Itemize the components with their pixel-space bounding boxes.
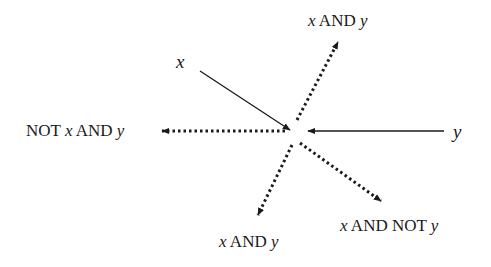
output-label-out-up: x AND y bbox=[308, 12, 368, 29]
input-arrow-0 bbox=[200, 71, 290, 130]
output-arrow-4 bbox=[258, 145, 292, 215]
input-label-x: x bbox=[176, 52, 184, 71]
output-label-out-downleft: x AND y bbox=[219, 233, 279, 250]
output-arrow-5 bbox=[300, 143, 381, 201]
output-arrow-2 bbox=[297, 42, 338, 120]
logic-diagram: xyx AND yNOT x AND yx AND yx AND NOT y bbox=[0, 0, 491, 267]
input-label-y: y bbox=[453, 122, 461, 141]
output-label-out-downright: x AND NOT y bbox=[340, 217, 438, 234]
output-label-out-left: NOT x AND y bbox=[26, 122, 124, 139]
